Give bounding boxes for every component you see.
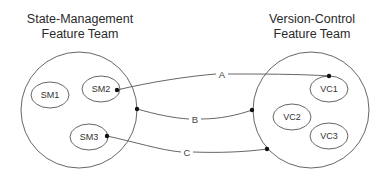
connection-c: C — [105, 134, 269, 158]
member-node-vc1: VC1 — [310, 76, 348, 102]
team-diagram: SM1 SM2 SM3 VC1 VC2 VC3 A B C — [0, 0, 386, 185]
connection-label-a: A — [219, 69, 226, 80]
connection-b: B — [135, 107, 254, 125]
team-circle-state-management — [21, 52, 137, 168]
connection-a: A — [115, 69, 331, 93]
member-node-sm2: SM2 — [82, 76, 120, 102]
member-label: SM3 — [80, 132, 99, 142]
member-label: VC3 — [320, 131, 338, 141]
member-label: VC1 — [320, 84, 338, 94]
endpoint-dot — [327, 74, 331, 78]
member-label: VC2 — [283, 112, 301, 122]
endpoint-dot — [265, 147, 269, 151]
member-label: SM1 — [41, 90, 60, 100]
member-node-vc2: VC2 — [273, 104, 311, 130]
connection-label-c: C — [184, 147, 191, 158]
member-label: SM2 — [92, 84, 111, 94]
endpoint-dot — [115, 88, 119, 92]
endpoint-dot — [105, 134, 109, 138]
member-node-sm1: SM1 — [31, 82, 69, 108]
connection-label-b: B — [192, 114, 198, 125]
member-node-vc3: VC3 — [310, 123, 348, 149]
team-circle-version-control — [253, 52, 369, 168]
member-node-sm3: SM3 — [70, 124, 108, 150]
endpoint-dot — [250, 108, 254, 112]
endpoint-dot — [135, 107, 139, 111]
